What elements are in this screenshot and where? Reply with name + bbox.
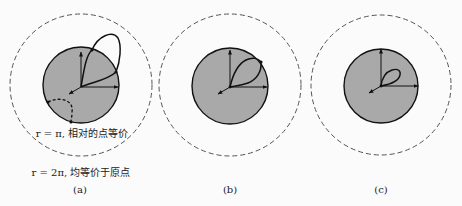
rotation-group-ball-diagram: r = π, 相对的点等价 r = 2π, 均等价于原点 (a) (b) (c)	[0, 0, 462, 206]
antipodal-point-1	[46, 100, 49, 103]
panel-caption-a: (a)	[73, 184, 87, 195]
panel-c: (c)	[311, 15, 451, 195]
panel-caption-b: (b)	[223, 184, 237, 195]
origin-point	[380, 85, 383, 88]
outer-boundary-annotation: r = 2π, 均等价于原点	[32, 166, 131, 178]
exit-point	[90, 48, 93, 51]
origin-point	[229, 86, 232, 89]
inner-boundary-annotation: r = π, 相对的点等价	[36, 127, 128, 139]
reentry-point	[114, 70, 117, 73]
boundary-point	[259, 60, 262, 63]
antipodal-point-2	[69, 120, 72, 123]
panel-a: r = π, 相对的点等价 r = 2π, 均等价于原点 (a)	[10, 14, 152, 195]
panel-caption-c: (c)	[374, 184, 388, 195]
panel-b: (b)	[159, 14, 301, 195]
